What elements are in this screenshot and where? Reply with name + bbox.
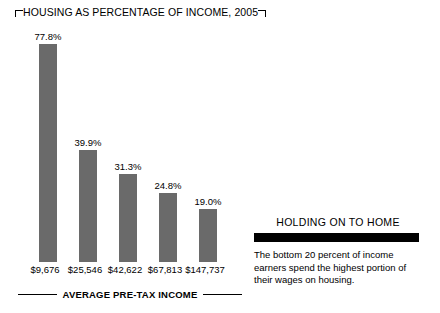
bar-column: 31.3% — [108, 30, 148, 262]
bar-column: 77.8% — [28, 30, 68, 262]
chart-title-bar: HOUSING AS PERCENTAGE OF INCOME, 2005 — [15, 10, 259, 24]
bar-value-label: 24.8% — [148, 180, 188, 191]
axis-rule-right — [203, 294, 242, 295]
bar-column: 39.9% — [68, 30, 108, 262]
bar-column: 24.8% — [148, 30, 188, 262]
sidebar-heading: HOLDING ON TO HOME — [254, 216, 422, 228]
bar-value-label: 39.9% — [68, 137, 108, 148]
title-bracket-left-icon — [15, 10, 23, 23]
bar-chart-plot-area: 77.8%39.9%31.3%24.8%19.0% — [28, 30, 240, 262]
title-bracket-right-icon — [258, 10, 266, 23]
bar-column: 19.0% — [188, 30, 228, 262]
bar — [119, 174, 137, 262]
category-label: $147,737 — [182, 264, 228, 276]
sidebar-body-text: The bottom 20 percent of income earners … — [254, 249, 420, 287]
sidebar-divider — [254, 233, 419, 242]
axis-caption: AVERAGE PRE-TAX INCOME — [18, 289, 242, 300]
bar-value-label: 19.0% — [188, 196, 228, 207]
bar-value-label: 31.3% — [108, 161, 148, 172]
sidebar-callout: HOLDING ON TO HOME The bottom 20 percent… — [254, 216, 422, 287]
bar-value-label: 77.8% — [28, 31, 68, 42]
axis-rule-left — [18, 294, 57, 295]
page-title: HOUSING AS PERCENTAGE OF INCOME, 2005 — [23, 7, 258, 18]
axis-caption-label: AVERAGE PRE-TAX INCOME — [63, 289, 198, 300]
bar — [39, 44, 57, 262]
bar — [79, 150, 97, 262]
bar — [199, 209, 217, 262]
bar — [159, 193, 177, 262]
category-axis-labels: $9,676$25,546$42,622$67,813$147,737 — [22, 264, 246, 277]
